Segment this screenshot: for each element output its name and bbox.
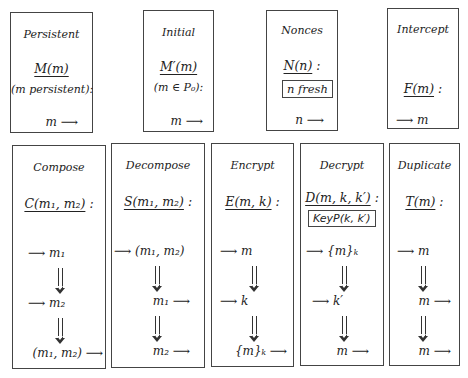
step-3: {m}ₖ ⟶ xyxy=(235,344,287,358)
step-2: ⟶ k′ xyxy=(312,294,343,308)
output-message: m ⟶ xyxy=(171,114,203,128)
step-2: ⟶ k xyxy=(220,294,248,308)
input-message: ⟶ m xyxy=(396,113,428,127)
rule-initial: Initial M′(m) (m ∈ P₀): m ⟶ xyxy=(143,10,214,132)
rule-title: Persistent xyxy=(11,28,92,41)
output-message: m ⟶ xyxy=(46,115,78,129)
rule-name: D(m, k, k′) : xyxy=(301,190,383,205)
rule-name: C(m₁, m₂) : xyxy=(13,196,105,211)
rule-encrypt: Encrypt E(m, k) : ⟶ m ⟶ k {m}ₖ ⟶ xyxy=(211,143,294,367)
rule-title: Intercept xyxy=(388,23,458,36)
rule-name: T(m) : xyxy=(390,194,459,209)
rule-condition: (m ∈ P₀): xyxy=(144,81,213,94)
step-2: m₁ ⟶ xyxy=(153,294,190,308)
double-down-arrow-icon xyxy=(419,266,427,294)
rule-name: N(n) : xyxy=(267,58,337,73)
predicate-box: n fresh xyxy=(282,80,333,98)
rule-title: Nonces xyxy=(267,24,337,37)
predicate-box: KeyP(k, k′) xyxy=(308,210,376,227)
rule-compose: Compose C(m₁, m₂) : ⟶ m₁ ⟶ m₂ (m₁, m₂) ⟶ xyxy=(12,145,106,369)
rule-intercept: Intercept F(m) : ⟶ m xyxy=(387,8,459,129)
rule-name: S(m₁, m₂) : xyxy=(112,194,204,209)
output-message: n ⟶ xyxy=(295,113,324,127)
rule-title: Duplicate xyxy=(390,159,459,172)
step-2: ⟶ m₂ xyxy=(28,296,65,310)
rule-title: Decompose xyxy=(112,159,204,172)
step-1: ⟶ (m₁, m₂) xyxy=(114,244,184,258)
step-3: m ⟶ xyxy=(337,344,369,358)
rule-decompose: Decompose S(m₁, m₂) : ⟶ (m₁, m₂) m₁ ⟶ m₂… xyxy=(111,143,205,368)
rule-name: E(m, k) : xyxy=(212,194,293,209)
rule-title: Encrypt xyxy=(212,159,293,172)
double-down-arrow-icon xyxy=(56,318,64,346)
step-1: ⟶ m xyxy=(220,244,252,258)
rule-title: Compose xyxy=(13,161,105,174)
rule-condition: (m persistent): xyxy=(11,83,92,96)
rule-duplicate: Duplicate T(m) : ⟶ m m ⟶ m ⟶ xyxy=(389,143,460,366)
double-down-arrow-icon xyxy=(340,266,348,294)
step-3: (m₁, m₂) ⟶ xyxy=(33,346,103,360)
double-down-arrow-icon xyxy=(153,266,161,294)
rule-decrypt: Decrypt D(m, k, k′) : KeyP(k, k′) ⟶ {m}ₖ… xyxy=(300,143,384,366)
step-3: m ⟶ xyxy=(419,344,451,358)
step-1: ⟶ {m}ₖ xyxy=(306,244,358,258)
double-down-arrow-icon xyxy=(56,268,64,296)
double-down-arrow-icon xyxy=(419,316,427,344)
step-2: m ⟶ xyxy=(419,294,451,308)
step-3: m₂ ⟶ xyxy=(153,344,190,358)
rule-name: M(m) xyxy=(11,61,92,76)
rule-persistent: Persistent M(m) (m persistent): m ⟶ xyxy=(10,12,93,133)
rule-title: Decrypt xyxy=(301,159,383,172)
double-down-arrow-icon xyxy=(250,316,258,344)
rule-nonces: Nonces N(n) : n fresh n ⟶ xyxy=(266,10,338,131)
double-down-arrow-icon xyxy=(153,316,161,344)
rule-name: F(m) : xyxy=(388,81,458,96)
double-down-arrow-icon xyxy=(250,266,258,294)
step-1: ⟶ m xyxy=(397,244,429,258)
double-down-arrow-icon xyxy=(340,316,348,344)
step-1: ⟶ m₁ xyxy=(28,246,65,260)
rule-title: Initial xyxy=(144,26,213,39)
rule-name: M′(m) xyxy=(144,59,213,74)
